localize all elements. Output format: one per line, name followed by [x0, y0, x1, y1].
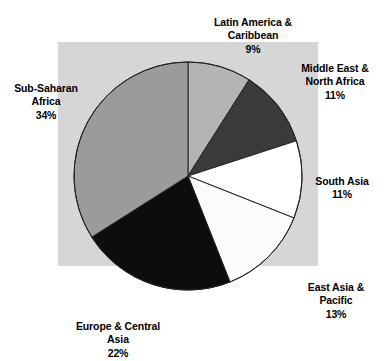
- slice-label-east-asia-pacific: East Asia & Pacific 13%: [288, 267, 384, 335]
- slice-label-text: Europe & Central Asia: [76, 320, 160, 346]
- slice-label-text: Latin America & Caribbean: [214, 16, 292, 42]
- slice-label-text: South Asia: [315, 175, 368, 187]
- slice-label-europe-central-asia: Europe & Central Asia 22%: [42, 306, 194, 361]
- slice-label-south-asia: South Asia 11%: [300, 161, 384, 215]
- slice-label-percent: 34%: [0, 109, 92, 123]
- slice-label-text: Sub-Saharan Africa: [14, 82, 78, 108]
- slice-label-text: Middle East & North Africa: [301, 62, 369, 88]
- slice-label-percent: 11%: [286, 89, 384, 103]
- slice-label-percent: 13%: [288, 308, 384, 322]
- slice-label-text: East Asia & Pacific: [308, 281, 364, 307]
- slice-label-percent: 22%: [42, 347, 194, 361]
- slice-label-middle-east-north-africa: Middle East & North Africa 11%: [286, 48, 384, 116]
- slice-label-sub-saharan-africa: Sub-Saharan Africa 34%: [0, 68, 92, 136]
- slice-label-percent: 11%: [300, 188, 384, 202]
- pie-slice-group: [74, 62, 302, 290]
